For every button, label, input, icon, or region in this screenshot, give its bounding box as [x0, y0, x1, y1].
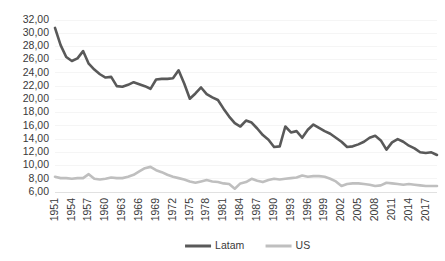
y-axis-tick-label: 16,00: [23, 119, 49, 131]
x-axis-tick-label: 1966: [132, 198, 144, 222]
y-axis-tick-label: 6,00: [29, 185, 50, 197]
x-axis-tick-label: 1969: [149, 198, 161, 222]
x-axis-tick-label: 1981: [216, 198, 228, 222]
x-axis-tick-label: 1978: [199, 198, 211, 222]
x-axis-tick-label: 2011: [385, 198, 397, 221]
y-axis-tick-label: 32,00: [23, 13, 49, 25]
line-chart: 32,0030,0028,0026,0024,0022,0020,0018,00…: [0, 0, 445, 261]
x-axis-tick-label: 2005: [351, 198, 363, 222]
x-axis-tick-label: 1993: [284, 198, 296, 222]
x-axis-tick-label: 1954: [65, 198, 77, 222]
x-axis-tick-label: 1996: [301, 198, 313, 222]
x-axis-tick-label: 1975: [183, 198, 195, 222]
y-axis-tick-label: 12,00: [23, 145, 49, 157]
y-axis-tick-label: 30,00: [23, 26, 49, 38]
series-line-latam: [55, 28, 437, 155]
series-line-us: [55, 167, 437, 189]
x-axis-tick-label: 2017: [419, 198, 431, 222]
gridlines-group: [55, 20, 437, 192]
x-axis-tick-label: 1963: [115, 198, 127, 222]
y-axis-tick-label: 28,00: [23, 39, 49, 51]
x-axis-labels-group: 1951195419571960196319661969197219751978…: [48, 198, 431, 222]
x-axis-tick-label: 1999: [317, 198, 329, 222]
x-axis-tick-label: 1951: [48, 198, 60, 222]
x-axis-tick-label: 2008: [368, 198, 380, 222]
chart-legend: LatamUS: [185, 239, 310, 251]
y-axis-tick-label: 22,00: [23, 79, 49, 91]
x-axis-tick-label: 1957: [81, 198, 93, 222]
y-axis-tick-label: 14,00: [23, 132, 49, 144]
legend-label-us: US: [296, 239, 311, 251]
y-axis-tick-label: 10,00: [23, 158, 49, 170]
x-axis-tick-label: 1987: [250, 198, 262, 222]
x-axis-tick-label: 1972: [166, 198, 178, 222]
x-axis-tick-label: 2014: [402, 198, 414, 222]
x-axis-tick-label: 1984: [233, 198, 245, 222]
y-axis-tick-label: 8,00: [29, 172, 50, 184]
legend-label-latam: Latam: [215, 239, 244, 251]
x-axis-tick-label: 1960: [98, 198, 110, 222]
chart-canvas: 32,0030,0028,0026,0024,0022,0020,0018,00…: [0, 0, 445, 261]
x-axis-tick-label: 2002: [334, 198, 346, 222]
y-axis-labels-group: 32,0030,0028,0026,0024,0022,0020,0018,00…: [23, 13, 49, 197]
x-axis-tick-label: 1990: [267, 198, 279, 222]
y-axis-tick-label: 20,00: [23, 92, 49, 104]
y-axis-tick-label: 18,00: [23, 105, 49, 117]
y-axis-tick-label: 26,00: [23, 52, 49, 64]
y-axis-tick-label: 24,00: [23, 66, 49, 78]
series-group: [55, 28, 437, 189]
